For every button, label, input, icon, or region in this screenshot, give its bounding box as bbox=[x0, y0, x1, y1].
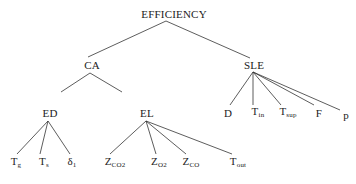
node-label: Z bbox=[151, 155, 158, 167]
node-label: CA bbox=[84, 59, 100, 71]
edge-ca-ed bbox=[61, 73, 90, 92]
node-ca: CA bbox=[84, 60, 100, 71]
node-label: EFFICIENCY bbox=[141, 8, 207, 20]
node-tout: Tout bbox=[230, 156, 246, 171]
node-zo2: ZO2 bbox=[151, 156, 167, 171]
node-efficiency: EFFICIENCY bbox=[141, 9, 207, 20]
node-zco: ZCO bbox=[182, 156, 199, 171]
node-tg: Tg bbox=[11, 156, 22, 171]
edge-el-tout bbox=[146, 121, 232, 154]
node-subscript: CO2 bbox=[112, 161, 126, 169]
node-subscript: O2 bbox=[158, 161, 167, 169]
edge-ed-ts bbox=[40, 121, 48, 154]
node-ed: ED bbox=[42, 108, 57, 119]
node-label: T bbox=[11, 155, 18, 167]
node-label: p bbox=[343, 109, 349, 121]
node-subscript: in bbox=[259, 111, 265, 119]
edge-ed-tg bbox=[17, 121, 48, 154]
node-delta1: δ1 bbox=[67, 156, 76, 171]
node-label: SLE bbox=[244, 59, 264, 71]
edge-efficiency-sle bbox=[166, 21, 250, 58]
edge-el-zco bbox=[146, 121, 186, 154]
node-d: D bbox=[224, 108, 232, 119]
node-p: p bbox=[343, 110, 349, 121]
node-subscript: sup bbox=[286, 111, 296, 119]
node-label: T bbox=[230, 155, 237, 167]
node-f: F bbox=[316, 108, 322, 119]
tree-edges bbox=[0, 0, 356, 184]
node-subscript: out bbox=[237, 161, 247, 169]
node-label: T bbox=[252, 105, 259, 117]
node-el: EL bbox=[140, 108, 154, 119]
node-label: Z bbox=[105, 155, 112, 167]
edge-sle-d bbox=[230, 72, 253, 105]
node-label: T bbox=[39, 155, 46, 167]
node-label: T bbox=[279, 105, 286, 117]
node-label: Z bbox=[182, 155, 189, 167]
edge-ca-el bbox=[90, 73, 122, 92]
node-label: D bbox=[224, 107, 232, 119]
edge-sle-p bbox=[253, 72, 340, 110]
node-tsup: Tsup bbox=[279, 106, 296, 121]
edge-el-zo2 bbox=[146, 121, 156, 154]
node-label: F bbox=[316, 107, 322, 119]
node-subscript: g bbox=[18, 161, 22, 169]
node-subscript: s bbox=[46, 161, 49, 169]
edge-el-zco2 bbox=[110, 121, 146, 154]
node-subscript: CO bbox=[189, 161, 199, 169]
node-sle: SLE bbox=[244, 60, 264, 71]
edge-sle-tsup bbox=[253, 72, 281, 105]
edge-sle-f bbox=[253, 72, 314, 105]
node-label: ED bbox=[42, 107, 57, 119]
node-subscript: 1 bbox=[73, 161, 77, 169]
node-zco2: ZCO2 bbox=[105, 156, 126, 171]
node-ts: Ts bbox=[39, 156, 49, 171]
edge-efficiency-ca bbox=[88, 21, 166, 57]
edge-ed-delta1 bbox=[48, 121, 70, 154]
node-tin: Tin bbox=[252, 106, 265, 121]
node-label: EL bbox=[140, 107, 154, 119]
